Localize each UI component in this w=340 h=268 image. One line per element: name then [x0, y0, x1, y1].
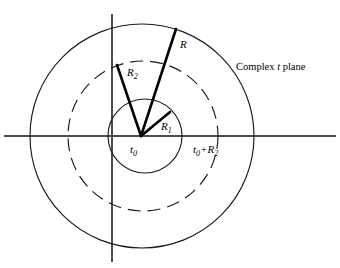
- complex-plane-diagram: R R2 R1 t0 t0+R2 Complex t plane: [0, 0, 340, 268]
- label-t0-sub: 0: [133, 149, 137, 158]
- label-R1-sub: 1: [168, 126, 172, 135]
- label-t0-plus-R2-r-sub: 2: [214, 149, 218, 158]
- label-t0: t0: [130, 143, 137, 158]
- complex-plane-annotation: Complex t plane: [236, 61, 306, 72]
- label-R: R: [179, 38, 187, 50]
- label-R2-sub: 2: [134, 72, 138, 81]
- annotation-suffix: plane: [283, 61, 306, 72]
- label-t0-plus-R2-operator: +: [200, 143, 207, 155]
- label-R1: R1: [160, 120, 172, 135]
- figure-container: R R2 R1 t0 t0+R2 Complex t plane: [0, 0, 340, 268]
- annotation-prefix: Complex: [236, 61, 275, 72]
- label-R2: R2: [126, 66, 138, 81]
- label-t0-plus-R2: t0+R2: [193, 143, 218, 158]
- label-R-base: R: [179, 38, 187, 50]
